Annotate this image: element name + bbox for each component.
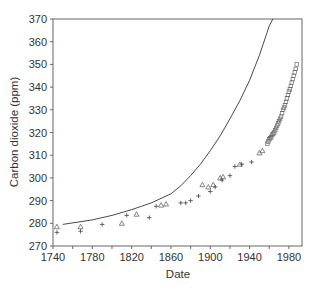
triangle-marker	[260, 148, 265, 153]
x-axis-title: Date	[166, 268, 190, 280]
cross-marker	[249, 160, 253, 164]
cross-marker	[179, 201, 183, 205]
series-square	[265, 63, 298, 146]
x-tick-label: 1980	[277, 251, 301, 263]
model-curve-line	[63, 15, 275, 225]
square-marker	[288, 88, 292, 92]
square-marker	[276, 122, 280, 126]
square-marker	[284, 100, 288, 104]
x-tick-label: 1740	[41, 251, 65, 263]
x-tick-label: 1780	[80, 251, 104, 263]
cross-marker	[125, 213, 129, 217]
x-tick-label: 1860	[159, 251, 183, 263]
square-marker	[294, 67, 298, 71]
y-tick-label: 370	[29, 13, 47, 25]
square-marker	[282, 106, 286, 110]
x-tick-label: 1900	[198, 251, 222, 263]
square-marker	[295, 63, 299, 67]
triangle-marker	[119, 221, 124, 226]
y-tick-label: 300	[29, 172, 47, 184]
series-layer	[54, 15, 298, 235]
cross-marker	[208, 189, 212, 193]
square-marker	[290, 81, 294, 85]
triangle-marker	[134, 212, 139, 217]
y-axis-title: Carbon dioxide (ppm)	[8, 77, 20, 188]
triangle-marker	[78, 224, 83, 229]
square-marker	[279, 115, 283, 119]
y-tick-label: 340	[29, 81, 47, 93]
cross-marker	[233, 164, 237, 168]
co2-chart: 1740178018201860190019401980 27028029030…	[0, 0, 314, 291]
x-tick-label: 1820	[119, 251, 143, 263]
y-tick-label: 350	[29, 58, 47, 70]
square-marker	[286, 93, 290, 97]
square-marker	[280, 111, 284, 115]
triangle-marker	[206, 184, 211, 189]
cross-marker	[154, 204, 158, 208]
cross-marker	[55, 230, 59, 234]
square-marker	[268, 136, 272, 140]
y-tick-label: 310	[29, 149, 47, 161]
x-axis-ticks: 1740178018201860190019401980	[41, 246, 301, 263]
series-line	[63, 15, 275, 225]
square-marker	[289, 84, 293, 88]
y-tick-label: 320	[29, 127, 47, 139]
square-marker	[292, 74, 296, 78]
triangle-marker	[54, 224, 59, 229]
cross-marker	[213, 185, 217, 189]
square-marker	[281, 108, 285, 112]
plot-frame	[53, 19, 302, 246]
cross-marker	[228, 173, 232, 177]
square-marker	[266, 140, 270, 144]
triangle-marker	[164, 202, 169, 207]
square-marker	[278, 117, 282, 121]
series-triangle	[54, 148, 264, 229]
y-tick-label: 360	[29, 36, 47, 48]
y-tick-label: 330	[29, 104, 47, 116]
cross-marker	[78, 229, 82, 233]
cross-marker	[188, 198, 192, 202]
triangle-marker	[200, 182, 205, 187]
square-marker	[277, 119, 281, 123]
cross-marker	[100, 222, 104, 226]
square-marker	[287, 90, 291, 94]
y-tick-label: 280	[29, 217, 47, 229]
cross-marker	[184, 201, 188, 205]
y-tick-label: 270	[29, 240, 47, 252]
x-tick-label: 1940	[237, 251, 261, 263]
square-marker	[285, 97, 289, 101]
triangle-marker	[221, 174, 226, 179]
square-marker	[265, 142, 269, 146]
y-axis-ticks: 270280290300310320330340350360370	[29, 13, 53, 252]
square-marker	[291, 77, 295, 81]
square-marker	[293, 71, 297, 75]
square-marker	[275, 124, 279, 128]
series-cross	[55, 160, 254, 235]
square-marker	[283, 103, 287, 107]
cross-marker	[196, 194, 200, 198]
square-marker	[271, 132, 275, 136]
square-marker	[273, 128, 277, 132]
cross-marker	[147, 215, 151, 219]
y-tick-label: 290	[29, 195, 47, 207]
square-marker	[274, 126, 278, 130]
triangle-marker	[159, 203, 164, 208]
